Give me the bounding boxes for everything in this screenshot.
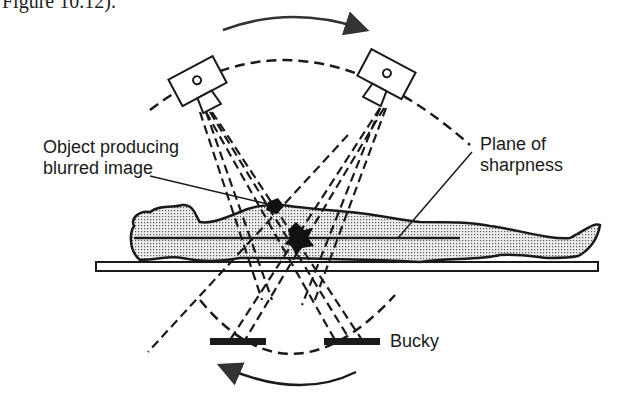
- bucky-left: [210, 338, 266, 345]
- object-label-line1: Object producing: [43, 137, 179, 157]
- patient-body: [131, 205, 600, 262]
- x-ray-tube-left-icon: [168, 56, 234, 120]
- plane-label-line2: sharpness: [480, 155, 563, 175]
- object-label-line2: blurred image: [43, 158, 153, 178]
- bucky-label: Bucky: [390, 331, 439, 351]
- bucky-movement-arrow: [226, 368, 356, 385]
- tomography-diagram: Object producing blurred image Plane of …: [0, 0, 617, 397]
- plane-label-line1: Plane of: [480, 134, 547, 154]
- bucky-right: [324, 338, 380, 345]
- tube-movement-arrow: [223, 17, 360, 30]
- examination-table: [96, 262, 598, 271]
- x-ray-tube-right-icon: [350, 49, 416, 113]
